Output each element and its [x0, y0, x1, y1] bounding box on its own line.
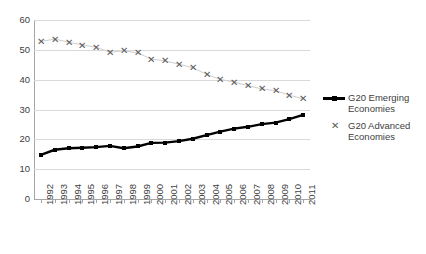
data-point-x: ✕: [119, 46, 128, 55]
data-point-square: [108, 144, 112, 148]
legend-item-emerging: G20 Emerging Economies: [322, 92, 426, 114]
x-axis-tick-mark: [262, 199, 263, 203]
data-point-square: [246, 125, 250, 129]
legend-label-emerging: G20 Emerging Economies: [348, 92, 426, 114]
data-point-x: ✕: [230, 78, 239, 87]
data-point-x: ✕: [161, 56, 170, 65]
y-axis-tick-label: 0: [4, 194, 30, 204]
x-axis-tick-mark: [69, 199, 70, 203]
y-axis-tick-label: 40: [4, 75, 30, 85]
x-axis-tick-mark: [234, 199, 235, 203]
x-axis-tick-mark: [138, 199, 139, 203]
data-point-x: ✕: [216, 75, 225, 84]
x-axis-tick-label: 2011: [307, 185, 317, 205]
y-axis-tick-label: 30: [4, 105, 30, 115]
y-axis-tick-label: 60: [4, 15, 30, 25]
legend-square-marker-icon: [332, 96, 337, 101]
x-axis-tick-mark: [289, 199, 290, 203]
x-axis-tick-label: 2008: [266, 184, 276, 205]
x-axis-tick-label: 2006: [238, 184, 248, 205]
x-axis-tick-label: 2003: [197, 184, 207, 205]
data-point-x: ✕: [188, 63, 197, 72]
data-point-x: ✕: [202, 70, 211, 79]
data-point-square: [122, 146, 126, 150]
data-point-square: [177, 139, 181, 143]
x-axis-tick-mark: [96, 199, 97, 203]
data-point-x: ✕: [243, 81, 252, 90]
x-axis-tick-label: 1992: [45, 184, 55, 205]
x-axis-tick-label: 2001: [169, 184, 179, 205]
x-axis-tick-label: 2002: [183, 184, 193, 205]
chart-screenshot: 0102030405060 ✕✕✕✕✕✕✕✕✕✕✕✕✕✕✕✕✕✕✕✕ G20 E…: [0, 0, 426, 254]
y-axis-tick-label: 50: [4, 45, 30, 55]
legend-x-marker-icon: ✕: [322, 120, 348, 131]
x-axis-tick-mark: [248, 199, 249, 203]
x-axis-tick-mark: [220, 199, 221, 203]
data-point-square: [274, 121, 278, 125]
data-point-x: ✕: [174, 60, 183, 69]
x-axis-tick-mark: [276, 199, 277, 203]
x-axis-tick-mark: [207, 199, 208, 203]
x-axis-tick-mark: [303, 199, 304, 203]
x-axis-tick-label: 1995: [86, 184, 96, 205]
data-point-x: ✕: [257, 84, 266, 93]
series-line-paths: [34, 20, 310, 199]
legend-key-line-square-marker: [322, 92, 348, 103]
data-point-square: [39, 153, 43, 157]
y-axis-tick-label: 20: [4, 134, 30, 144]
data-point-square: [301, 113, 305, 117]
data-point-square: [94, 145, 98, 149]
chart-legend: G20 Emerging Economies ✕ G20 Advanced Ec…: [322, 92, 426, 148]
data-point-x: ✕: [147, 55, 156, 64]
data-point-square: [218, 130, 222, 134]
data-point-square: [149, 141, 153, 145]
data-point-x: ✕: [92, 43, 101, 52]
data-point-x: ✕: [78, 41, 87, 50]
x-axis-tick-label: 1997: [114, 184, 124, 205]
data-point-square: [163, 141, 167, 145]
data-point-x: ✕: [285, 91, 294, 100]
data-point-square: [80, 146, 84, 150]
legend-item-advanced: ✕ G20 Advanced Economies: [322, 120, 426, 142]
x-axis-tick-label: 2010: [293, 184, 303, 205]
legend-key-x-marker: ✕: [322, 120, 348, 131]
x-axis-tick-label: 2004: [211, 184, 221, 205]
data-point-x: ✕: [299, 94, 308, 103]
data-point-x: ✕: [271, 86, 280, 95]
data-point-square: [191, 137, 195, 141]
x-axis-tick-label: 1996: [100, 184, 110, 205]
data-point-square: [67, 146, 71, 150]
data-point-x: ✕: [133, 48, 142, 57]
data-point-square: [53, 148, 57, 152]
legend-label-advanced: G20 Advanced Economies: [348, 120, 426, 142]
x-axis-tick-label: 2007: [252, 184, 262, 205]
x-axis-tick-mark: [82, 199, 83, 203]
x-axis-tick-label: 1993: [59, 184, 69, 205]
data-point-x: ✕: [36, 37, 45, 46]
x-axis-tick-mark: [151, 199, 152, 203]
data-point-square: [260, 122, 264, 126]
data-point-x: ✕: [105, 48, 114, 57]
x-axis-tick-label: 2009: [280, 184, 290, 205]
data-point-x: ✕: [50, 35, 59, 44]
x-axis-tick-mark: [110, 199, 111, 203]
x-axis-tick-mark: [179, 199, 180, 203]
data-point-square: [287, 117, 291, 121]
data-point-square: [136, 144, 140, 148]
plot-area: ✕✕✕✕✕✕✕✕✕✕✕✕✕✕✕✕✕✕✕✕: [34, 20, 310, 199]
data-point-square: [205, 133, 209, 137]
x-axis-tick-mark: [124, 199, 125, 203]
x-axis-tick-mark: [165, 199, 166, 203]
x-axis-tick-label: 1998: [128, 184, 138, 205]
y-axis-tick-label: 10: [4, 164, 30, 174]
data-point-x: ✕: [64, 38, 73, 47]
x-axis-tick-label: 1994: [73, 184, 83, 205]
x-axis-tick-label: 2005: [224, 184, 234, 205]
x-axis-tick-mark: [193, 199, 194, 203]
x-axis-tick-label: 2000: [155, 184, 165, 205]
x-axis-tick-mark: [55, 199, 56, 203]
y-axis-tick-labels: 0102030405060: [0, 0, 30, 254]
x-axis-tick-label: 1999: [142, 184, 152, 205]
x-axis-tick-mark: [41, 199, 42, 203]
data-point-square: [232, 127, 236, 131]
